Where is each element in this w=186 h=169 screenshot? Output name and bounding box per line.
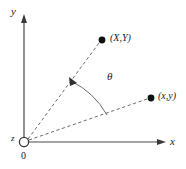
upper-point-label: (X,Y) [110, 33, 131, 43]
origin-label: 0 [21, 151, 26, 161]
lower-point-marker [148, 95, 155, 102]
z-axis-label: z [11, 134, 15, 143]
angle-arc [71, 81, 107, 115]
y-axis [21, 14, 27, 142]
theta-label: θ [107, 71, 112, 82]
origin-marker [19, 137, 28, 146]
x-axis-arrowhead [157, 139, 166, 145]
figure-canvas: y x z 0 θ (X,Y) (x,y) [0, 0, 186, 169]
upper-point-marker [99, 37, 106, 44]
ray-to-lower-point [29, 99, 147, 140]
x-axis-label: x [170, 136, 175, 147]
coordinate-diagram [0, 0, 186, 169]
ray-to-upper-point [28, 43, 99, 139]
x-axis [27, 139, 166, 145]
y-axis-arrowhead [21, 14, 27, 23]
y-axis-label: y [11, 6, 16, 17]
lower-point-label: (x,y) [158, 91, 176, 101]
